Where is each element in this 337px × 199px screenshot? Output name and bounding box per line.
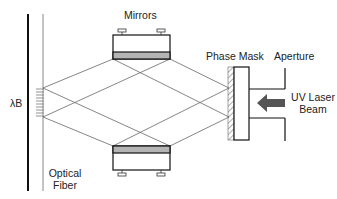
top-mirror bbox=[113, 29, 170, 59]
optical-fiber-label: Optical Fiber bbox=[44, 167, 86, 191]
mirrors-label: Mirrors bbox=[124, 9, 157, 21]
phase-mask bbox=[228, 67, 249, 140]
uv-laser-label: UV Laser Beam bbox=[288, 91, 337, 115]
optical-fiber-label-line1: Optical bbox=[44, 167, 86, 179]
phase-mask-label: Phase Mask bbox=[206, 50, 264, 62]
optical-fiber-label-line2: Fiber bbox=[44, 179, 86, 191]
mirror-mount-icon bbox=[118, 170, 165, 176]
mirror-mount-icon bbox=[118, 29, 165, 35]
uv-laser-arrow-icon bbox=[257, 94, 285, 112]
aperture-label: Aperture bbox=[274, 50, 314, 62]
uv-laser-label-line2: Beam bbox=[288, 103, 337, 115]
diffracted-rays bbox=[43, 59, 229, 146]
uv-laser-label-line1: UV Laser bbox=[288, 91, 337, 103]
bottom-mirror bbox=[113, 146, 170, 176]
lambda-b-label: λB bbox=[10, 97, 22, 109]
